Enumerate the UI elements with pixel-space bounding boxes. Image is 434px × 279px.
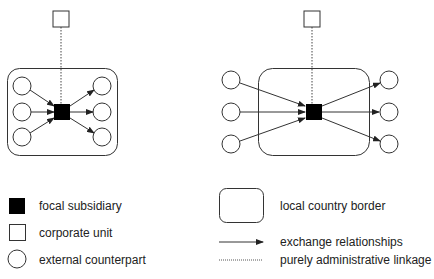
external-counterpart: [222, 103, 240, 121]
exchange-arrow: [322, 118, 380, 141]
legend-label-administrative-linkage: purely administrative linkage: [280, 253, 431, 267]
left-diagram: [8, 11, 118, 156]
external-counterpart: [93, 103, 111, 121]
corporate-unit: [53, 11, 69, 27]
exchange-arrow: [30, 90, 54, 106]
focal-subsidiary: [306, 104, 322, 120]
external-counterpart: [93, 77, 111, 95]
legend-focal-subsidiary-icon: [9, 198, 25, 214]
external-counterpart: [93, 128, 111, 146]
external-counterpart: [222, 135, 240, 153]
exchange-arrow: [70, 118, 94, 133]
legend-corporate-unit-icon: [10, 225, 26, 241]
exchange-arrow: [30, 118, 54, 133]
exchange-arrow: [240, 83, 305, 106]
legend-label-exchange-relationships: exchange relationships: [280, 235, 403, 249]
legend-label-corporate-unit: corporate unit: [39, 226, 112, 240]
exchange-arrow: [240, 118, 305, 141]
external-counterpart: [380, 71, 398, 89]
external-counterpart: [380, 103, 398, 121]
exchange-arrow: [322, 83, 380, 106]
legend-label-local-country-border: local country border: [280, 199, 385, 213]
legend-external-counterpart-icon: [8, 250, 26, 268]
external-counterpart: [380, 135, 398, 153]
external-counterpart: [13, 128, 31, 146]
legend-label-external-counterpart: external counterpart: [39, 253, 146, 267]
focal-subsidiary: [54, 104, 70, 120]
right-diagram: [222, 11, 398, 156]
external-counterpart: [222, 71, 240, 89]
exchange-arrow: [70, 90, 94, 106]
external-counterpart: [13, 77, 31, 95]
corporate-unit: [304, 11, 320, 27]
external-counterpart: [13, 103, 31, 121]
legend-label-focal-subsidiary: focal subsidiary: [39, 199, 122, 213]
legend-local-country-border-icon: [220, 189, 264, 223]
